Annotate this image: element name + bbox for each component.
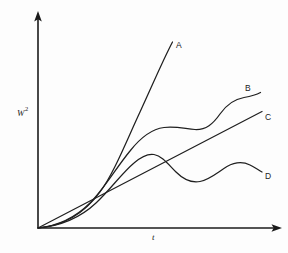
x-axis-label: t [152, 233, 155, 242]
curve-label-b: B [245, 84, 251, 93]
y-axis-label: W2 [17, 107, 28, 118]
curve-a-path [38, 42, 173, 228]
y-axis-label-base: W [17, 108, 25, 118]
curve-label-a: A [176, 41, 182, 50]
curve-label-c: C [265, 113, 272, 122]
chart-figure: W2 t A B C D [0, 0, 288, 253]
curve-c-path [38, 112, 262, 229]
y-axis-label-exponent: 2 [25, 105, 28, 112]
curve-b-path [38, 93, 261, 229]
chart-plot-area [0, 0, 288, 253]
curve-label-d: D [265, 172, 272, 181]
